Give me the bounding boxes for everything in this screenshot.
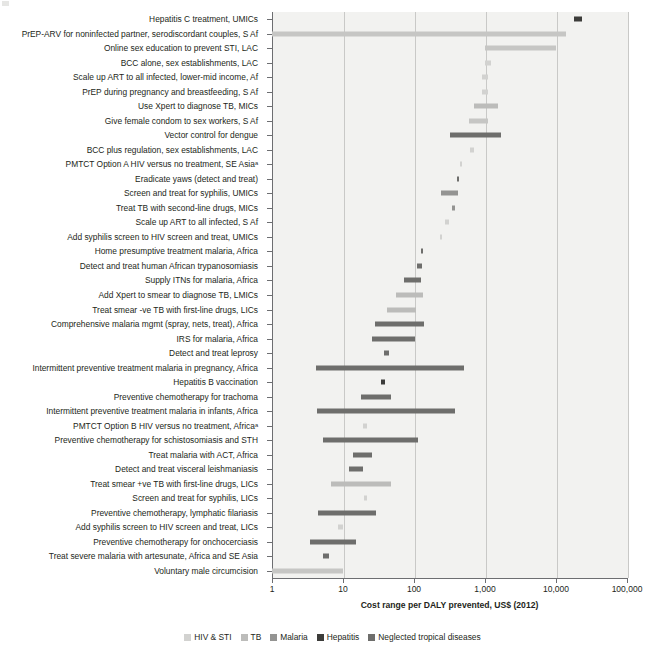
category-label: Intermittent preventive treatment malari… [32,363,258,372]
x-tick [414,578,415,583]
x-tick-label: 100,000 [612,584,643,594]
category-tick [267,19,272,20]
x-tick-label: 1 [270,584,275,594]
gridline [344,12,345,578]
range-bar [470,147,474,152]
x-tick [627,578,628,583]
category-tick [267,63,272,64]
range-bar [316,365,464,370]
category-tick [267,542,272,543]
category-label: Treat malaria with ACT, Africa [148,450,258,459]
category-tick [267,48,272,49]
category-tick [267,251,272,252]
range-bar [452,205,455,210]
category-label: PrEP during pregnancy and breastfeeding,… [82,87,258,96]
category-tick [267,121,272,122]
category-tick [267,324,272,325]
range-bar [364,496,367,501]
range-bar [384,351,389,356]
x-tick [272,578,273,583]
category-tick [267,469,272,470]
x-tick-label: 10,000 [543,584,569,594]
category-tick [267,527,272,528]
range-bar [331,481,391,486]
category-label: Vector control for dengue [164,131,258,140]
range-bar [353,452,372,457]
category-tick [267,426,272,427]
x-tick [485,578,486,583]
category-label: Treat smear -ve TB with first-line drugs… [92,305,258,314]
x-axis-line [272,578,627,579]
category-label: Home presumptive treatment malaria, Afri… [95,247,258,256]
x-tick-label: 100 [407,584,421,594]
category-tick [267,556,272,557]
range-bar [482,89,488,94]
category-label: Comprehensive malaria mgmt (spray, nets,… [51,320,258,329]
category-label: Eradicate yaws (detect and treat) [135,174,258,183]
category-tick [267,382,272,383]
x-axis-title: Cost range per DALY prevented, US$ (2012… [272,600,627,610]
category-label: Screen and treat for syphilis, LICs [132,494,258,503]
range-bar [272,568,343,573]
chart-legend: HIV & STITBMalariaHepatitisNeglected tro… [0,632,665,642]
range-bar [338,525,343,530]
category-tick [267,339,272,340]
range-bar [574,17,582,22]
category-tick [267,92,272,93]
category-tick [267,498,272,499]
category-label: Preventive chemotherapy for schistosomia… [55,436,258,445]
category-tick [267,135,272,136]
category-label: Use Xpert to diagnose TB, MICs [138,102,258,111]
plot-area [272,12,628,578]
category-tick [267,77,272,78]
category-label: Intermittent preventive treatment malari… [46,407,258,416]
range-bar [310,539,356,544]
range-bar [474,104,498,109]
gridline [486,12,487,578]
legend-label: Hepatitis [327,632,360,642]
category-tick [267,193,272,194]
category-label: Add syphilis screen to HIV screen and tr… [76,523,258,532]
category-tick [267,397,272,398]
legend-label: Neglected tropical diseases [378,632,480,642]
x-tick-label: 10 [338,584,347,594]
range-bar [381,380,385,385]
category-label: Detect and treat leprosy [169,349,258,358]
category-label: Add Xpert to smear to diagnose TB, LMICs [98,291,258,300]
category-label: PrEP-ARV for noninfected partner, serodi… [22,29,258,38]
legend-swatch-icon [368,634,375,641]
category-label: PMTCT Option B HIV versus no treatment, … [73,421,258,430]
range-bar [441,191,458,196]
category-tick [267,353,272,354]
category-label: Treat smear +ve TB with first-line drugs… [90,479,258,488]
category-tick [267,150,272,151]
category-tick [267,513,272,514]
legend-item: Malaria [270,632,307,642]
corner-mark [2,1,9,6]
legend-swatch-icon [270,634,277,641]
category-label: Add syphilis screen to HIV screen and tr… [67,232,258,241]
chart-figure: Hepatitis C treatment, UMICsPrEP-ARV for… [0,0,665,659]
range-bar [445,220,449,225]
category-tick [267,280,272,281]
range-bar [396,293,424,298]
category-label: Preventive chemotherapy for trachoma [114,392,258,401]
category-tick [267,237,272,238]
range-bar [404,278,421,283]
legend-item: TB [241,632,262,642]
x-tick-label: 1,000 [474,584,495,594]
range-bar [485,46,556,51]
category-label: Preventive chemotherapy, lymphatic filar… [91,508,258,517]
category-label: Preventive chemotherapy for onchocercias… [93,537,258,546]
legend-swatch-icon [317,634,324,641]
gridline [557,12,558,578]
category-tick [267,455,272,456]
category-tick [267,266,272,267]
range-bar [349,467,363,472]
range-bar [323,554,329,559]
range-bar [318,510,375,515]
category-tick [267,411,272,412]
category-tick [267,295,272,296]
category-label: Detect and treat human African trypanoso… [80,261,258,270]
legend-item: Hepatitis [317,632,360,642]
